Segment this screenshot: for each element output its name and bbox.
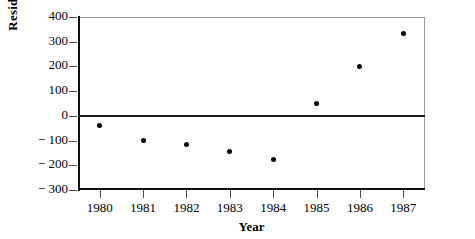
data-point: [97, 123, 102, 128]
x-axis-tick: [186, 190, 187, 198]
x-axis-tick: [100, 190, 101, 198]
y-axis-tick-label: 300: [24, 33, 68, 49]
y-axis-tick: [69, 165, 77, 166]
x-axis-title: Year: [78, 219, 425, 235]
y-axis-tick: [69, 91, 77, 92]
x-axis-tick-labels: 19801981198219831984198519861987: [78, 200, 425, 218]
y-axis-tick-label: 200: [24, 57, 68, 73]
data-point: [141, 138, 146, 143]
x-axis-ticks: [78, 190, 425, 199]
data-point: [401, 31, 406, 36]
y-axis-line: [78, 16, 80, 191]
y-axis-tick: [69, 42, 77, 43]
data-point: [314, 101, 319, 106]
x-axis-tick: [403, 190, 404, 198]
data-point: [184, 142, 189, 147]
zero-reference-line: [78, 115, 425, 117]
y-axis-tick-label: − 100: [24, 132, 68, 148]
y-axis-tick-label: 0: [24, 107, 68, 123]
y-axis-tick: [69, 66, 77, 67]
x-axis-tick: [230, 190, 231, 198]
y-axis-tick: [69, 17, 77, 18]
y-axis-tick-label: 400: [24, 8, 68, 24]
y-axis-tick-labels: 4003002001000− 100− 200− 300: [20, 17, 68, 190]
plot-border-right: [424, 17, 425, 190]
y-axis-tick-label: − 300: [24, 181, 68, 197]
y-axis-tick-label: − 200: [24, 156, 68, 172]
data-point: [357, 64, 362, 69]
residuals-scatter-chart: Residuals 4003002001000− 100− 200− 300 1…: [0, 0, 475, 239]
y-axis-tick: [69, 190, 77, 191]
y-axis-tick-label: 100: [24, 82, 68, 98]
y-axis-tick: [69, 141, 77, 142]
x-axis-tick: [317, 190, 318, 198]
data-point: [227, 149, 232, 154]
y-axis-tick: [69, 116, 77, 117]
x-axis-tick: [143, 190, 144, 198]
plot-border-top: [78, 17, 425, 18]
plot-area: [78, 17, 425, 190]
x-axis-tick: [273, 190, 274, 198]
x-axis-tick: [360, 190, 361, 198]
x-axis-tick-label: 1987: [378, 200, 428, 216]
data-point: [271, 157, 276, 162]
